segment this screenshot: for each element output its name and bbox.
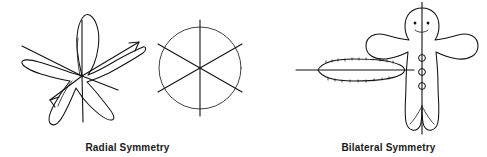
bilateral-symmetry-caption: Bilateral Symmetry (290, 142, 487, 153)
radial-symmetry-caption: Radial Symmetry (0, 142, 255, 153)
circle-symmetry-axes (158, 20, 242, 116)
right-eye-icon (427, 21, 430, 24)
bilateral-symmetry-panel: Bilateral Symmetry (290, 0, 487, 157)
symmetry-diagram: Radial Symmetry (0, 0, 487, 157)
human-figure-illustration (358, 2, 486, 136)
starfish-illustration (12, 6, 152, 128)
radial-circle-illustration (150, 12, 250, 124)
radial-symmetry-panel: Radial Symmetry (0, 0, 255, 157)
left-eye-icon (414, 21, 417, 24)
